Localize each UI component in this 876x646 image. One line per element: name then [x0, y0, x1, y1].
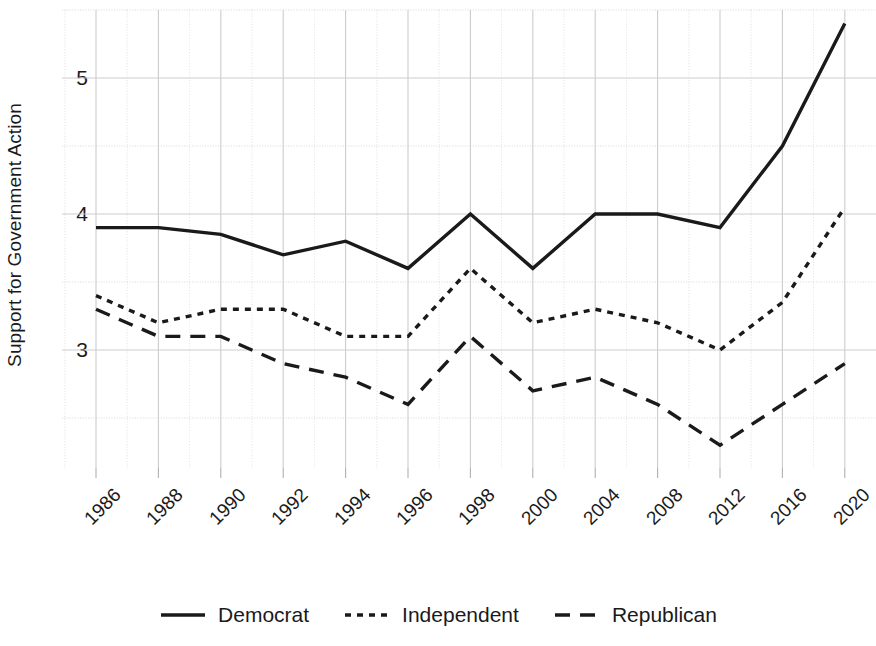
- legend-item-independent[interactable]: Independent: [343, 604, 519, 625]
- legend-swatch-dashed-icon: [553, 608, 601, 622]
- plot-area: [0, 0, 876, 646]
- legend-swatch-solid-icon: [159, 608, 207, 622]
- legend-swatch-dotted-icon: [343, 608, 391, 622]
- legend-item-democrat[interactable]: Democrat: [159, 604, 309, 625]
- line-chart-figure: Support for Government Action 345 198619…: [0, 0, 876, 646]
- legend-label: Independent: [402, 604, 519, 625]
- chart-legend: DemocratIndependentRepublican: [0, 604, 876, 625]
- legend-label: Democrat: [218, 604, 309, 625]
- legend-item-republican[interactable]: Republican: [553, 604, 717, 625]
- legend-label: Republican: [612, 604, 717, 625]
